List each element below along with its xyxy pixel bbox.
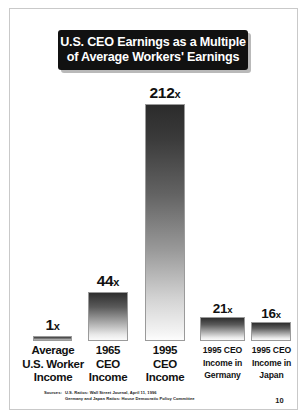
bar-value-label-44x: 44x	[88, 272, 128, 290]
sources-text-2: Germany and Japan Ratios: House Democrat…	[65, 396, 195, 401]
chart-page: U.S. CEO Earnings as a Multiple of Avera…	[0, 0, 307, 419]
category-line: Income	[135, 371, 195, 385]
sources-note: Sources:U.S. Ratios: Wall Street Journal…	[44, 390, 234, 403]
bar-value-suffix-16: x	[276, 309, 281, 320]
sources-label: Sources:	[44, 390, 62, 395]
bar-value-number-44: 44	[97, 272, 114, 289]
category-line: 1995 CEO	[246, 344, 297, 357]
bar-value-label-212x: 212x	[140, 84, 190, 102]
bar-value-suffix-1: x	[54, 320, 60, 332]
bar-chart-plot-area: 1x Average U.S. Worker Income 44x 1965 C…	[0, 0, 307, 419]
bar-value-label-16x: 16x	[251, 304, 291, 322]
bar-1965-ceo-income	[88, 292, 128, 341]
category-line: CEO	[78, 358, 138, 372]
category-line: Germany	[197, 369, 248, 382]
bar-value-number-16: 16	[261, 306, 275, 321]
bar-value-number-21: 21	[213, 301, 227, 316]
category-line: Japan	[246, 369, 297, 382]
category-label-1995-ceo-income-japan: 1995 CEO Income in Japan	[246, 344, 297, 382]
category-line: 1965	[78, 344, 138, 358]
bar-value-suffix-21: x	[227, 304, 232, 315]
category-label-1965-ceo-income: 1965 CEO Income	[78, 344, 138, 385]
bar-value-number-212: 212	[150, 84, 175, 101]
category-line: Income in	[197, 357, 248, 370]
sources-line-2: Germany and Japan Ratios: House Democrat…	[44, 396, 234, 402]
category-line: 1995 CEO	[197, 344, 248, 357]
bar-value-label-1x: 1x	[33, 316, 72, 334]
bar-value-suffix-44: x	[113, 276, 119, 288]
bar-value-suffix-212: x	[175, 88, 181, 100]
category-line: CEO	[135, 358, 195, 372]
bar-value-label-21x: 21x	[200, 299, 245, 317]
page-number: 10	[275, 396, 284, 405]
bar-1995-ceo-income	[145, 104, 185, 341]
category-line: 1995	[135, 344, 195, 358]
bar-1995-ceo-income-germany	[200, 317, 245, 341]
bar-value-number-1: 1	[45, 316, 53, 333]
category-line: Income	[78, 371, 138, 385]
category-label-1995-ceo-income-germany: 1995 CEO Income in Germany	[197, 344, 248, 382]
sources-text-1: U.S. Ratios: Wall Street Journal, April …	[65, 390, 157, 395]
bar-average-us-worker-income	[33, 336, 72, 341]
bar-1995-ceo-income-japan	[251, 322, 291, 341]
category-label-1995-ceo-income: 1995 CEO Income	[135, 344, 195, 385]
category-line: Income in	[246, 357, 297, 370]
